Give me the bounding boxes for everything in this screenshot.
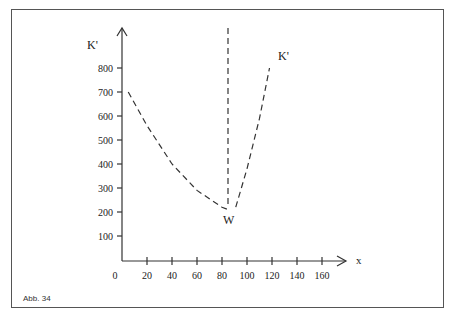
y-tick-label: 800 [98,63,113,74]
y-tick-label: 100 [98,231,113,242]
x-tick-label: 140 [290,270,305,281]
curves [128,68,269,210]
y-ticks: 100200300400500600700800 [98,63,122,242]
y-tick-label: 500 [98,135,113,146]
y-tick-label: 700 [98,87,113,98]
x-tick-label: 120 [265,270,280,281]
x-axis-label: x [356,254,362,266]
y-tick-label: 600 [98,111,113,122]
curve-left-branch [128,92,228,210]
x-tick-label: 80 [217,270,227,281]
y-axis [117,28,127,261]
x-tick-label: 100 [240,270,255,281]
y-tick-label: 400 [98,159,113,170]
chart-canvas: 100200300400500600700800 020406080100120… [0,0,453,318]
y-tick-label: 200 [98,207,113,218]
y-tick-label: 300 [98,183,113,194]
x-tick-label: 60 [192,270,202,281]
x-tick-label: 20 [142,270,152,281]
curve-right-branch [236,68,270,207]
minimum-point-label: W [223,213,235,227]
x-tick-label: 160 [315,270,330,281]
x-tick-label: 40 [167,270,177,281]
figure-caption: Abb. 34 [23,294,51,303]
y-axis-label: K' [87,38,98,52]
x-tick-label: 0 [113,270,118,281]
curve-label: K' [278,49,289,63]
x-axis [122,256,346,266]
